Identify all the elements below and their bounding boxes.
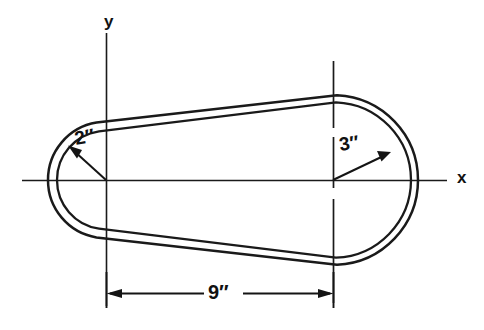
right-radius-arrowhead bbox=[377, 151, 391, 162]
right-radius-leader-line bbox=[333, 156, 385, 181]
dimension-arrowhead-left bbox=[107, 289, 123, 298]
length-dimension-label: 9″ bbox=[208, 281, 229, 304]
left-radius-label: 2″ bbox=[73, 125, 97, 150]
geometry-figure: y x 2″ 3″ 9″ bbox=[0, 0, 484, 330]
diagram-canvas bbox=[0, 0, 484, 330]
left-radius-leader-group bbox=[68, 146, 106, 181]
y-axis-label: y bbox=[104, 12, 113, 32]
right-radius-label: 3″ bbox=[338, 131, 361, 156]
x-axis-label: x bbox=[457, 168, 466, 188]
axis-group bbox=[22, 33, 447, 306]
dimension-arrowhead-right bbox=[318, 289, 334, 298]
